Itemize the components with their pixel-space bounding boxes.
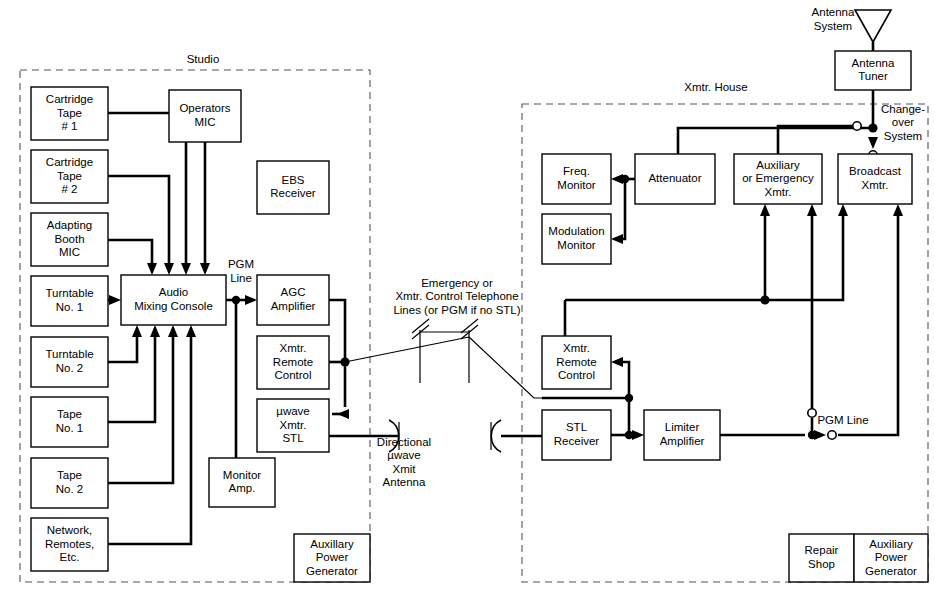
svg-text:Monitor: Monitor <box>557 179 596 191</box>
svg-text:Emergency or: Emergency or <box>421 277 493 289</box>
block-turntable-2[interactable]: TurntableNo. 2 <box>31 337 108 387</box>
svg-text:Auxiliary: Auxiliary <box>756 159 800 171</box>
block-tape-1[interactable]: TapeNo. 1 <box>31 397 108 447</box>
svg-text:Change-: Change- <box>881 103 925 115</box>
svg-text:PGM: PGM <box>228 258 254 270</box>
svg-text:Cartridge: Cartridge <box>46 156 93 168</box>
block-network-remotes-etc[interactable]: Network,Remotes,Etc. <box>31 518 108 571</box>
block-broadcast-xmtr[interactable]: BroadcastXmtr. <box>838 154 912 204</box>
block-modulation-monitor[interactable]: ModulationMonitor <box>542 214 611 264</box>
svg-text:Monitor: Monitor <box>557 239 596 251</box>
svg-text:MIC: MIC <box>59 246 80 258</box>
block-antenna-tuner[interactable]: AntennaTuner <box>835 51 911 90</box>
svg-text:Turntable: Turntable <box>45 348 93 360</box>
svg-text:Adapting: Adapting <box>47 219 92 231</box>
broadcast-station-block-diagram: CartridgeTape# 1CartridgeTape# 2Adapting… <box>0 0 935 606</box>
svg-text:STL: STL <box>282 432 304 444</box>
block-xmtr-remote-control-house[interactable]: Xmtr.RemoteControl <box>542 336 611 389</box>
block-limiter-amplifier[interactable]: LimiterAmplifier <box>644 410 720 460</box>
svg-text:Monitor: Monitor <box>223 469 262 481</box>
block-attenuator[interactable]: Attenuator <box>635 154 715 204</box>
label-pgm-line-studio: PGMLine <box>228 258 254 284</box>
svg-text:No. 1: No. 1 <box>56 301 84 313</box>
svg-text:Power: Power <box>316 551 349 563</box>
svg-text:Shop: Shop <box>808 558 835 570</box>
svg-text:Directional: Directional <box>377 436 431 448</box>
label-directional-antenna: DirectionalµwaveXmitAntenna <box>377 436 431 489</box>
svg-text:over: over <box>892 116 915 128</box>
svg-text:Amplifier: Amplifier <box>660 435 705 447</box>
svg-text:µwave: µwave <box>276 405 309 417</box>
svg-text:Repair: Repair <box>805 544 839 556</box>
svg-text:Xmtr.: Xmtr. <box>280 419 307 431</box>
label-studio-zone: Studio <box>187 53 220 65</box>
svg-text:Tuner: Tuner <box>858 70 888 82</box>
block-turntable-1[interactable]: TurntableNo. 1 <box>31 276 108 326</box>
block-cartridge-tape-1[interactable]: CartridgeTape# 1 <box>31 87 108 140</box>
svg-text:Amplifier: Amplifier <box>271 300 316 312</box>
svg-text:Control: Control <box>558 369 595 381</box>
svg-text:STL: STL <box>566 421 588 433</box>
svg-text:MIC: MIC <box>194 116 215 128</box>
svg-text:Receiver: Receiver <box>270 187 316 199</box>
svg-text:Tape: Tape <box>57 408 82 420</box>
block-freq-monitor[interactable]: Freq.Monitor <box>542 154 611 204</box>
block-adapting-booth-mic[interactable]: AdaptingBoothMIC <box>31 213 108 266</box>
svg-text:Freq.: Freq. <box>563 165 590 177</box>
attenuator-label: Attenuator <box>648 172 701 184</box>
svg-text:Cartridge: Cartridge <box>46 93 93 105</box>
svg-text:Studio: Studio <box>187 53 220 65</box>
svg-text:Tape: Tape <box>57 107 82 119</box>
block-auxiliary-power-generator[interactable]: AuxiliaryPowerGenerator <box>854 534 928 582</box>
svg-text:Mixing Console: Mixing Console <box>134 300 213 312</box>
svg-text:Tape: Tape <box>57 469 82 481</box>
svg-text:Xmit: Xmit <box>393 463 417 475</box>
svg-text:Remote: Remote <box>273 356 313 368</box>
block-monitor-amp[interactable]: MonitorAmp. <box>209 458 275 507</box>
limiter-amplifier-label: LimiterAmplifier <box>660 421 705 447</box>
block-stl-receiver[interactable]: STLReceiver <box>542 410 611 460</box>
svg-text:Auxiliary: Auxiliary <box>869 538 913 550</box>
svg-text:Audio: Audio <box>159 286 188 298</box>
block-ebs-receiver[interactable]: EBSReceiver <box>257 161 329 214</box>
block-operators-mic[interactable]: OperatorsMIC <box>169 90 241 142</box>
svg-text:Antenna: Antenna <box>383 476 426 488</box>
svg-text:Xmtr. House: Xmtr. House <box>684 81 747 93</box>
svg-text:No. 2: No. 2 <box>56 362 84 374</box>
label-pgm-line-xmtr: PGM Line <box>817 414 868 426</box>
telephone-pole-left-icon <box>412 319 429 383</box>
svg-text:Modulation: Modulation <box>548 225 604 237</box>
svg-text:Control: Control <box>274 369 311 381</box>
svg-text:Tape: Tape <box>57 170 82 182</box>
antenna-system-icon <box>855 10 891 51</box>
block-uwave-xmtr-stl[interactable]: µwaveXmtr.STL <box>257 399 329 452</box>
svg-text:Network,: Network, <box>47 524 92 536</box>
telephone-line-run <box>420 332 542 398</box>
stl-receive-antenna-icon <box>491 420 501 452</box>
svg-text:No. 2: No. 2 <box>56 483 84 495</box>
svg-text:EBS: EBS <box>281 174 304 186</box>
label-changeover-system: Change-overSystem <box>881 103 925 142</box>
svg-text:Power: Power <box>875 551 908 563</box>
label-telephone-lines: Emergency orXmtr. Control TelephoneLines… <box>393 277 520 316</box>
label-antenna-system: AntennaSystem <box>812 6 855 32</box>
svg-text:µwave: µwave <box>387 449 420 461</box>
block-agc-amplifier[interactable]: AGCAmplifier <box>257 275 329 325</box>
label-xmtr-house-zone: Xmtr. House <box>684 81 747 93</box>
svg-text:Broadcast: Broadcast <box>849 165 902 177</box>
block-audio-mixing-console[interactable]: AudioMixing Console <box>121 275 226 325</box>
block-xmtr-remote-control-studio[interactable]: Xmtr.RemoteControl <box>257 336 329 389</box>
block-repair-shop[interactable]: RepairShop <box>789 534 854 582</box>
block-auxiliary-or-emergency-xmtr[interactable]: Auxiliaryor EmergencyXmtr. <box>734 154 822 204</box>
repair-shop-label: RepairShop <box>805 544 839 570</box>
svg-text:Antenna: Antenna <box>852 57 895 69</box>
svg-text:Lines (or PGM if no STL): Lines (or PGM if no STL) <box>393 304 520 316</box>
svg-text:PGM Line: PGM Line <box>817 414 868 426</box>
block-cartridge-tape-2[interactable]: CartridgeTape# 2 <box>31 150 108 203</box>
svg-text:Etc.: Etc. <box>60 551 80 563</box>
block-studio-auxiliary-power-generator[interactable]: AuxillaryPowerGenerator <box>294 534 370 582</box>
svg-text:Xmtr.: Xmtr. <box>862 179 889 191</box>
svg-text:Amp.: Amp. <box>229 482 256 494</box>
block-tape-2[interactable]: TapeNo. 2 <box>31 458 108 508</box>
svg-text:Antenna: Antenna <box>812 6 855 18</box>
